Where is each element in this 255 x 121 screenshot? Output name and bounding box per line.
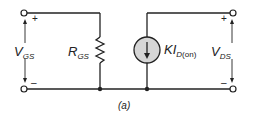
terminal-drain (230, 10, 236, 16)
arrowhead-icon (23, 19, 27, 24)
label-source: KID(on) (164, 42, 196, 59)
figure-caption: (a) (118, 100, 130, 111)
vds-plus-sign: + (221, 13, 227, 24)
terminal-source-right (230, 86, 236, 92)
arrowhead-icon (230, 78, 234, 83)
resistor-symbol (96, 37, 104, 63)
arrowhead-icon (230, 19, 234, 24)
arrowhead-icon (23, 78, 27, 83)
junction-dot (98, 87, 102, 91)
label-vgs: VGS (14, 44, 34, 61)
junction-dot (145, 87, 149, 91)
vds-minus-sign: – (221, 77, 227, 88)
vgs-plus-sign: + (32, 13, 38, 24)
label-vds: VDS (211, 44, 231, 61)
terminal-source-left (21, 86, 27, 92)
label-rgs: RGS (68, 44, 89, 61)
vgs-minus-sign: – (31, 77, 37, 88)
terminal-gate (21, 10, 27, 16)
